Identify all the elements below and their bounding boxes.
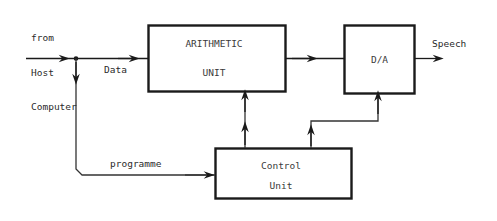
control-unit-label-line-2: Unit: [215, 180, 347, 191]
control-to-da-path: [311, 94, 378, 148]
data-label: Data: [104, 64, 127, 76]
arithmetic-unit-box: [149, 26, 286, 92]
speech-label: Speech: [432, 38, 466, 50]
host-label-line-3: Computer: [31, 101, 77, 113]
arithmetic-unit-label-line-1: ARITHMETIC: [148, 38, 280, 49]
control-unit-label-line-1: Control: [215, 160, 347, 171]
arithmetic-unit-label-line-2: UNIT: [148, 67, 280, 78]
host-label-line-2: Host: [31, 67, 77, 79]
host-label-line-1: from: [31, 32, 77, 44]
control-unit-box: [216, 149, 352, 199]
da-converter-label: D/A: [344, 54, 415, 65]
diagram-canvas: from Host Computer Data programme Speech…: [0, 0, 497, 221]
host-computer-label: from Host Computer: [31, 9, 77, 136]
programme-label: programme: [110, 158, 161, 170]
